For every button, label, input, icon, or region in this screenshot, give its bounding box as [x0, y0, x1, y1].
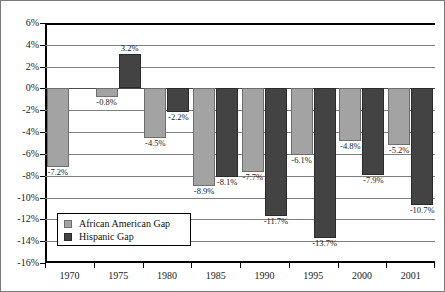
- y-tick-label: -2%: [1, 105, 39, 115]
- y-tick-mark: [40, 241, 45, 242]
- y-tick-mark: [40, 154, 45, 155]
- legend-swatch-african-american-icon: [64, 220, 72, 228]
- plot-top-border: [45, 23, 435, 25]
- bar: [388, 88, 410, 145]
- y-tick-label: -6%: [1, 149, 39, 159]
- y-tick-label: -12%: [1, 214, 39, 224]
- y-tick-mark: [40, 23, 45, 24]
- bar: [119, 54, 141, 89]
- chart-legend: African American Gap Hispanic Gap: [57, 213, 191, 246]
- y-tick-mark: [40, 132, 45, 133]
- gridline: [45, 45, 435, 46]
- bar-value-label: -10.7%: [399, 206, 445, 215]
- y-tick-label: -16%: [1, 258, 39, 268]
- legend-label-african-american: African American Gap: [79, 218, 170, 229]
- bar-value-label: -4.8%: [327, 142, 373, 151]
- bar-value-label: -7.7%: [230, 173, 276, 182]
- bar-value-label: -8.9%: [181, 187, 227, 196]
- y-tick-mark: [40, 67, 45, 68]
- x-tick-mark: [289, 263, 290, 268]
- legend-item-african-american-gap: African American Gap: [64, 217, 190, 230]
- bar-value-label: -4.5%: [132, 139, 178, 148]
- bar: [291, 88, 313, 155]
- gridline: [45, 198, 435, 199]
- y-tick-label: -14%: [1, 236, 39, 246]
- bar: [339, 88, 361, 140]
- bar: [265, 88, 287, 216]
- y-tick-mark: [40, 198, 45, 199]
- chart-figure: 6%4%2%0%-2%-4%-6%-8%-10%-12%-14%-16% -7.…: [0, 0, 445, 292]
- bar: [47, 88, 69, 167]
- bar: [362, 88, 384, 174]
- bar-value-label: -2.2%: [155, 113, 201, 122]
- legend-item-hispanic-gap: Hispanic Gap: [64, 230, 190, 243]
- y-tick-label: -10%: [1, 193, 39, 203]
- y-tick-label: -4%: [1, 127, 39, 137]
- y-tick-label: 0%: [1, 83, 39, 93]
- x-tick-mark: [386, 263, 387, 268]
- bar: [96, 88, 118, 97]
- bar-value-label: 3.2%: [107, 44, 153, 53]
- bar: [193, 88, 215, 185]
- y-tick-label: 2%: [1, 62, 39, 72]
- y-tick-label: 6%: [1, 18, 39, 28]
- bar-value-label: -7.9%: [350, 176, 396, 185]
- x-tick-mark: [191, 263, 192, 268]
- x-tick-mark: [143, 263, 144, 268]
- bar: [216, 88, 238, 176]
- y-tick-label: 4%: [1, 40, 39, 50]
- y-tick-mark: [40, 45, 45, 46]
- x-tick-mark: [338, 263, 339, 268]
- bar-value-label: -13.7%: [302, 239, 348, 248]
- y-tick-mark: [40, 88, 45, 89]
- bar-value-label: -11.7%: [253, 217, 299, 226]
- x-tick-mark: [240, 263, 241, 268]
- x-tick-label: 2001: [381, 271, 441, 281]
- bar: [242, 88, 264, 172]
- bar: [167, 88, 189, 112]
- bar-value-label: -5.2%: [376, 146, 422, 155]
- legend-label-hispanic: Hispanic Gap: [79, 231, 134, 242]
- y-tick-mark: [40, 219, 45, 220]
- y-tick-mark: [40, 110, 45, 111]
- x-tick-mark: [45, 263, 46, 268]
- x-tick-mark: [94, 263, 95, 268]
- gridline: [45, 67, 435, 68]
- y-tick-label: -8%: [1, 171, 39, 181]
- bar-value-label: -0.8%: [84, 98, 130, 107]
- legend-swatch-hispanic-icon: [64, 233, 72, 241]
- bar-value-label: -6.1%: [279, 156, 325, 165]
- bar-value-label: -7.2%: [35, 168, 81, 177]
- x-tick-mark: [434, 263, 435, 268]
